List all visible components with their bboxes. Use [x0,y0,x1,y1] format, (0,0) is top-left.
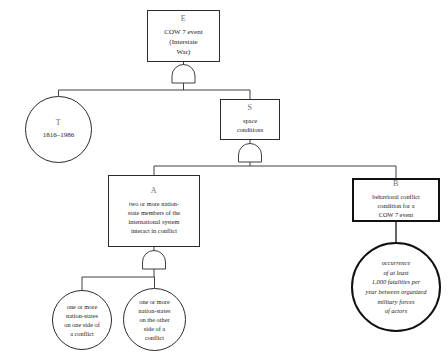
node-conflict-side-other[interactable]: one or more nation-states on the other s… [123,288,186,351]
node-s-label: space conditions [232,116,268,134]
and-gate-middle-body [239,144,262,163]
node-b-id: B [393,180,399,189]
node-s-space-conditions[interactable]: S space conditions [220,99,280,140]
node-a-id: A [151,187,157,196]
node-e-label: COW 7 event (Interstate War) [159,27,207,57]
node-occurrence-label: occurrence of at least 1,000 fatalities … [361,258,432,316]
node-b-behavioral-conflict[interactable]: B behavioral conflict condition for a CO… [352,178,440,222]
fault-tree-diagram: E COW 7 event (Interstate War) T 1816–19… [0,0,448,360]
node-a-nation-state-conflict[interactable]: A two or more nation- state members of t… [108,175,200,247]
node-e-id: E [181,15,186,24]
node-s-id: S [248,104,253,113]
and-gate-bottom-body [143,251,166,269]
node-a-label: two or more nation- state members of the… [123,199,185,236]
node-t-label: 1816–1986 [38,130,80,140]
node-t-id: T [56,119,61,128]
node-t-time-range[interactable]: T 1816–1986 [25,96,92,163]
node-conflict-side-one-label: one or more nation-states on one side of… [59,302,105,339]
node-occurrence-fatalities[interactable]: occurrence of at least 1,000 fatalities … [351,242,441,332]
node-conflict-side-one[interactable]: one or more nation-states on one side of… [52,290,112,350]
node-e-cow7-event[interactable]: E COW 7 event (Interstate War) [147,10,220,62]
and-gate-top-body [172,65,195,84]
node-conflict-side-other-label: one or more nation-states on the other s… [134,297,176,343]
node-b-label: behavioral conflict condition for a COW … [367,192,424,219]
